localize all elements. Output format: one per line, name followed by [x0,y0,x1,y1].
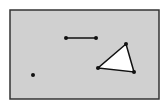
geometry-diagram [0,0,168,103]
diagram-canvas [10,10,159,99]
vertex-dot [94,36,98,40]
vertex-dot [132,70,136,74]
vertex-dot [96,66,100,70]
vertex-dot [124,42,128,46]
vertex-dot [64,36,68,40]
vertex-dot [31,73,35,77]
